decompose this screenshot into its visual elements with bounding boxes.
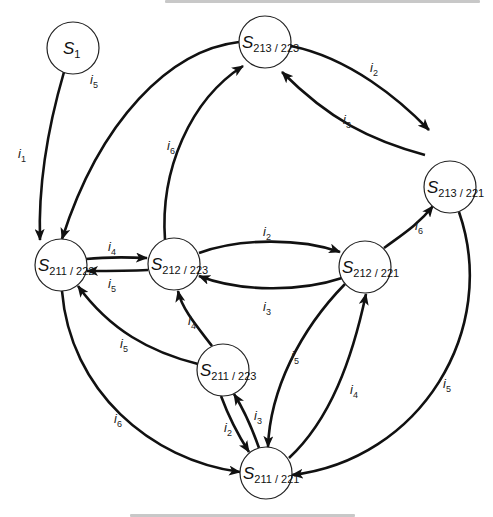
edge-s212-223-to-s212-221: [199, 242, 340, 253]
node-s212-221: S212 / 221: [339, 241, 399, 293]
edge-s212-221-to-s212-223: [199, 276, 342, 288]
edge-label: i5: [90, 72, 98, 90]
edge-s213-223-to-s211-222: [62, 42, 239, 239]
node-s213-223: S213 / 223: [239, 16, 299, 68]
edge-label: i5: [120, 336, 128, 354]
edge-s212-223-to-s213-223: [164, 66, 243, 240]
edge-s211-223-to-s212-223: [178, 291, 212, 346]
node-s212-223: S212 / 223: [148, 238, 208, 290]
edge-s1-to-s211-222: [40, 72, 64, 240]
node-s1: S1: [47, 22, 99, 74]
edge-label: i3: [263, 299, 271, 317]
edge-s212-223-to-s211-222: [87, 270, 148, 271]
edge-label: i3: [254, 408, 262, 426]
edge-label: i4: [188, 313, 196, 331]
edge-label: i4: [108, 239, 116, 257]
edge-s213-223-to-s213-221: [291, 46, 429, 130]
edge-s212-221-to-s211-221: [268, 284, 345, 447]
edge-label: i2: [263, 224, 271, 242]
edge-s211-221-to-s212-221: [289, 294, 366, 458]
edge-label: i4: [350, 382, 358, 400]
edge-label: i2: [224, 420, 232, 438]
edge-label: i5: [108, 276, 116, 294]
edge-label: i6: [167, 138, 175, 156]
node-s213-221: S213 / 221: [424, 161, 484, 213]
state-diagram: i1 i5 i2 i3 i6 i4 i5 i2 i3 i6 i5 i4 i5 i…: [0, 0, 493, 517]
edge-label: i3: [343, 112, 351, 130]
node-s211-222: S211 / 222: [35, 239, 94, 291]
node-s211-223: S211 / 223: [197, 344, 256, 396]
edge-s212-221-to-s213-221: [384, 206, 433, 248]
edge-label: i2: [370, 60, 378, 78]
edge-label: i1: [18, 146, 26, 164]
edge-s211-222-to-s212-223: [86, 257, 147, 259]
edge-label: i5: [443, 376, 451, 394]
edge-s213-221-to-s213-223: [282, 72, 425, 155]
